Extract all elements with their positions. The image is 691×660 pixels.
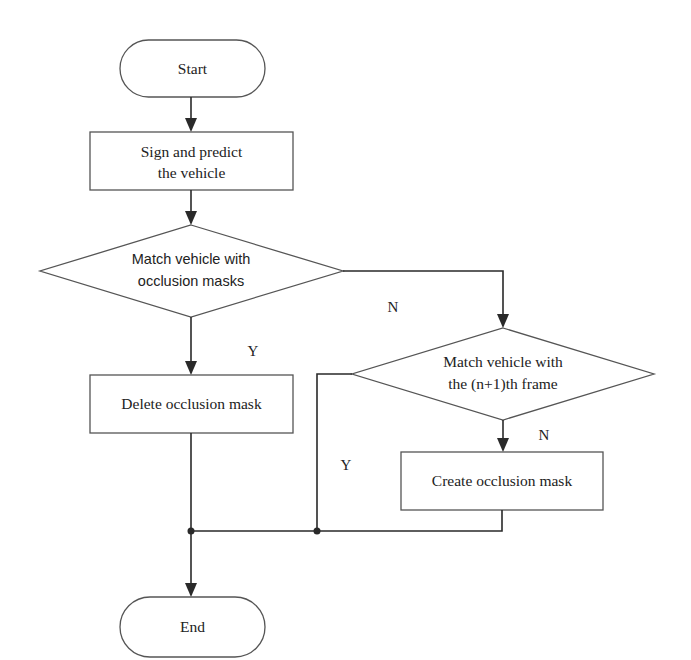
end-label: End: [180, 618, 205, 635]
edge-match-masks-yes: Y: [185, 317, 259, 375]
arrow-head-icon: [497, 438, 509, 452]
edge-match-next-frame-yes: Y: [317, 374, 352, 531]
arrow-head-icon: [185, 361, 197, 375]
start-label: Start: [178, 60, 208, 77]
match-masks-label-line1: Match vehicle with: [132, 251, 250, 267]
create-mask-label: Create occlusion mask: [432, 472, 573, 489]
match-next-frame-diamond: [352, 328, 654, 420]
match-next-frame-no-label: N: [539, 427, 550, 443]
edge-delete-to-end: [185, 433, 197, 597]
match-masks-label-line2: occlusion masks: [138, 273, 244, 289]
match-next-frame-decision: Match vehicle with the (n+1)th frame: [352, 328, 654, 420]
delete-mask-node: Delete occlusion mask: [90, 375, 293, 433]
edge-match-next-frame-no: N: [497, 420, 550, 452]
flowchart-canvas: Start Sign and predict the vehicle Match…: [0, 0, 691, 660]
junction-dot-left: [188, 528, 195, 535]
match-next-frame-label-line2: the (n+1)th frame: [448, 375, 558, 393]
match-next-frame-yes-label: Y: [341, 457, 352, 473]
edge-sign-to-match-masks: [185, 190, 197, 225]
delete-mask-label: Delete occlusion mask: [121, 395, 262, 412]
edge-start-to-sign: [185, 97, 197, 132]
edge-match-masks-no: N: [343, 271, 509, 328]
arrow-head-icon: [497, 314, 509, 328]
edge-create-to-junction: [191, 510, 502, 531]
match-masks-decision: Match vehicle with occlusion masks: [40, 225, 343, 317]
match-masks-yes-label: Y: [248, 343, 259, 359]
match-next-frame-label-line1: Match vehicle with: [443, 353, 563, 370]
create-mask-node: Create occlusion mask: [401, 452, 603, 510]
match-masks-diamond: [40, 225, 343, 317]
sign-predict-label-line2: the vehicle: [158, 164, 226, 181]
junction-dot-middle: [314, 528, 321, 535]
start-node: Start: [120, 40, 265, 97]
arrow-head-icon: [185, 583, 197, 597]
arrow-head-icon: [185, 118, 197, 132]
match-masks-no-label: N: [388, 299, 399, 315]
sign-predict-node: Sign and predict the vehicle: [90, 132, 293, 190]
end-node: End: [120, 597, 265, 657]
arrow-head-icon: [185, 211, 197, 225]
sign-predict-label-line1: Sign and predict: [141, 143, 243, 160]
sign-predict-box: [90, 132, 293, 190]
